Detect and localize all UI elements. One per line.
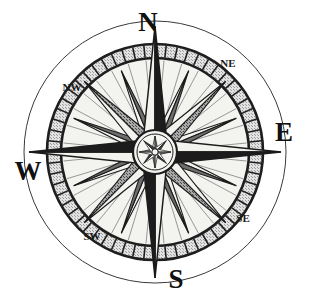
label-northwest: NW [63,81,82,93]
label-north: N [138,7,158,37]
label-south: S [168,264,183,294]
label-northeast: NE [220,57,235,69]
label-southeast: SE [236,212,249,224]
compass-rose-figure: N E S W NE NW SE SW [0,0,310,306]
compass-rose-icon: N E S W NE NW SE SW [0,0,310,306]
label-southwest: SW [83,230,100,242]
label-east: E [275,117,293,147]
label-west: W [15,156,42,186]
center-hub-rose-icon [133,130,177,174]
